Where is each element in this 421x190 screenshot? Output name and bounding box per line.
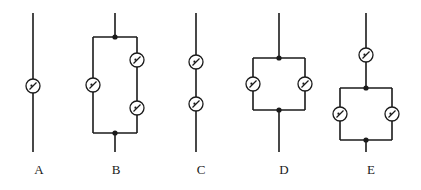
circuit-label-d: D xyxy=(272,163,296,176)
resistor-inner-dot-icon xyxy=(250,83,252,85)
junction-b-bottom xyxy=(112,130,117,135)
circuit-d xyxy=(246,13,312,152)
resistor-inner-dot-icon xyxy=(302,83,304,85)
circuit-c xyxy=(189,13,203,152)
resistor-inner-dot-icon xyxy=(90,84,92,86)
junction-e-top xyxy=(363,85,368,90)
circuit-label-a: A xyxy=(27,163,51,176)
resistor-b1 xyxy=(86,78,100,92)
resistor-c1 xyxy=(189,55,203,69)
resistor-d1 xyxy=(246,77,260,91)
resistor-inner-dot-icon xyxy=(30,85,32,87)
resistor-inner-dot-icon xyxy=(389,113,391,115)
resistor-inner-dot-icon xyxy=(193,61,195,63)
circuit-canvas xyxy=(0,0,421,190)
resistor-d2 xyxy=(298,77,312,91)
circuit-diagram-figure: ABCDE xyxy=(0,0,421,190)
resistor-e1 xyxy=(359,48,373,62)
circuit-label-b: B xyxy=(104,163,128,176)
resistor-e3 xyxy=(385,107,399,121)
junction-b-top xyxy=(112,34,117,39)
resistor-b2 xyxy=(130,53,144,67)
junction-e-bottom xyxy=(363,137,368,142)
junction-d-bottom xyxy=(276,107,281,112)
resistor-inner-dot-icon xyxy=(134,107,136,109)
resistor-inner-dot-icon xyxy=(134,59,136,61)
resistor-inner-dot-icon xyxy=(363,54,365,56)
resistor-e2 xyxy=(333,107,347,121)
resistor-b3 xyxy=(130,101,144,115)
circuit-a xyxy=(26,13,40,152)
circuit-e xyxy=(333,13,399,152)
resistor-inner-dot-icon xyxy=(193,103,195,105)
circuit-label-e: E xyxy=(359,163,383,176)
resistor-a1 xyxy=(26,79,40,93)
resistor-c2 xyxy=(189,97,203,111)
junction-d-top xyxy=(276,55,281,60)
circuit-b xyxy=(86,13,144,152)
resistor-inner-dot-icon xyxy=(337,113,339,115)
circuit-label-c: C xyxy=(189,163,213,176)
